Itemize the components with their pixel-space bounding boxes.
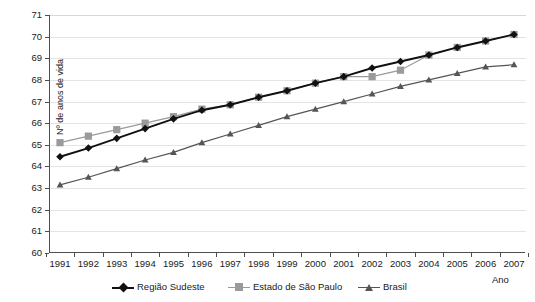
gridline bbox=[50, 210, 526, 211]
y-tick-label: 65 bbox=[18, 140, 42, 150]
chart-legend: Região SudesteEstado de São PauloBrasil bbox=[0, 279, 535, 299]
x-tick-mark bbox=[46, 253, 47, 257]
gridline bbox=[50, 188, 526, 189]
y-tick-mark bbox=[45, 102, 49, 103]
x-tick-mark bbox=[188, 253, 189, 257]
gridline bbox=[50, 123, 526, 124]
x-tick-mark bbox=[386, 253, 387, 257]
x-tick-mark bbox=[131, 253, 132, 257]
square-icon bbox=[228, 281, 250, 293]
x-tick-mark bbox=[443, 253, 444, 257]
triangle-icon bbox=[358, 281, 380, 293]
y-tick-label: 67 bbox=[18, 97, 42, 107]
y-tick-mark bbox=[45, 188, 49, 189]
gridline bbox=[50, 145, 526, 146]
y-tick-mark bbox=[45, 80, 49, 81]
y-tick-label: 62 bbox=[18, 205, 42, 215]
y-tick-label: 70 bbox=[18, 32, 42, 42]
y-tick-mark bbox=[45, 123, 49, 124]
y-tick-mark bbox=[45, 37, 49, 38]
legend-item[interactable]: Estado de São Paulo bbox=[228, 279, 342, 295]
legend-label: Região Sudeste bbox=[137, 282, 205, 292]
y-tick-label: 69 bbox=[18, 53, 42, 63]
y-tick-label: 71 bbox=[18, 10, 42, 20]
x-tick-mark bbox=[244, 253, 245, 257]
y-tick-mark bbox=[45, 145, 49, 146]
y-axis-title: Nº de anos de vida bbox=[55, 32, 65, 162]
x-tick-mark bbox=[216, 253, 217, 257]
y-tick-mark bbox=[45, 58, 49, 59]
y-tick-label: 63 bbox=[18, 183, 42, 193]
y-tick-label: 66 bbox=[18, 118, 42, 128]
gridline bbox=[50, 37, 526, 38]
x-tick-mark bbox=[74, 253, 75, 257]
diamond-icon bbox=[112, 281, 134, 293]
y-tick-mark bbox=[45, 231, 49, 232]
y-tick-mark bbox=[45, 166, 49, 167]
y-tick-label: 68 bbox=[18, 75, 42, 85]
gridline bbox=[50, 231, 526, 232]
y-tick-label: 61 bbox=[18, 226, 42, 236]
x-tick-mark bbox=[103, 253, 104, 257]
legend-label: Estado de São Paulo bbox=[253, 282, 342, 292]
legend-item[interactable]: Brasil bbox=[358, 279, 407, 295]
legend-label: Brasil bbox=[383, 282, 407, 292]
gridline bbox=[50, 15, 526, 16]
legend-item[interactable]: Região Sudeste bbox=[112, 279, 205, 295]
x-tick-mark bbox=[415, 253, 416, 257]
x-tick-mark bbox=[358, 253, 359, 257]
y-tick-mark bbox=[45, 210, 49, 211]
x-tick-mark bbox=[273, 253, 274, 257]
x-tick-mark bbox=[159, 253, 160, 257]
y-tick-mark bbox=[45, 15, 49, 16]
gridline bbox=[50, 166, 526, 167]
x-tick-label: 2007 bbox=[494, 259, 534, 269]
y-tick-label: 64 bbox=[18, 161, 42, 171]
x-tick-mark bbox=[500, 253, 501, 257]
x-tick-mark bbox=[528, 253, 529, 257]
x-tick-mark bbox=[301, 253, 302, 257]
plot-area bbox=[49, 15, 525, 253]
gridline bbox=[50, 80, 526, 81]
x-tick-mark bbox=[471, 253, 472, 257]
life-expectancy-line-chart: 606162636465666768697071 Nº de anos de v… bbox=[0, 0, 535, 302]
gridline bbox=[50, 58, 526, 59]
x-tick-mark bbox=[330, 253, 331, 257]
y-tick-label: 60 bbox=[18, 248, 42, 258]
gridline bbox=[50, 102, 526, 103]
